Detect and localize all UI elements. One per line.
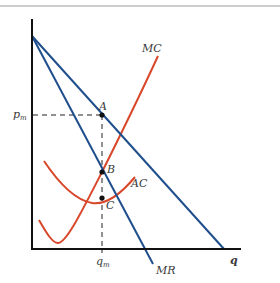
price-pm-main: p [13, 108, 20, 121]
quantity-qm-main: q [96, 255, 103, 268]
mr-label: MR [156, 265, 176, 276]
monopoly-diagram: MC AC MR A B C pm qm q [0, 0, 280, 283]
price-pm-sub: m [20, 114, 27, 122]
point-c-label: C [106, 200, 114, 211]
mc-label: MC [142, 43, 162, 54]
point-b-marker [99, 169, 104, 174]
quantity-qm-label: qm [96, 256, 110, 269]
quantity-qm-sub: m [103, 261, 110, 269]
price-pm-label: pm [13, 109, 27, 122]
point-a-label: A [99, 101, 107, 112]
diagram-canvas [0, 0, 280, 283]
point-b-label: B [107, 164, 115, 175]
quantity-axis-label: q [230, 255, 238, 266]
point-c-marker [99, 195, 104, 200]
point-a-marker [99, 112, 104, 117]
ac-label: AC [131, 178, 147, 189]
